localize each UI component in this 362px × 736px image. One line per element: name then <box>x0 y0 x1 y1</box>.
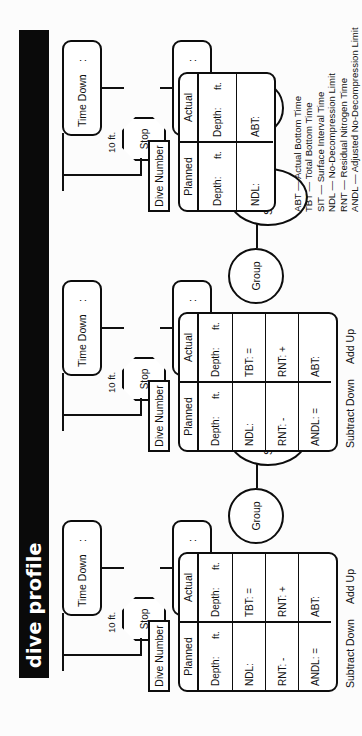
node-time-down-3[interactable]: Time Down : : <box>62 520 102 616</box>
node-label: Group <box>250 261 262 290</box>
table-row[interactable]: RNT: - RNT: + <box>265 314 298 450</box>
cell-label: Depth: <box>212 177 223 206</box>
cell-actual-rnt[interactable]: RNT: + <box>266 314 298 383</box>
cell-label: Depth: <box>210 588 221 617</box>
node-time-down-2[interactable]: Time Down : : <box>62 280 102 376</box>
table-row[interactable]: RNT: - RNT: + <box>265 554 298 690</box>
legend-item: TBT — Total Bottom Time <box>303 27 314 212</box>
dive-number-label: Dive Number <box>153 145 165 206</box>
node-label: Time Down <box>76 554 88 607</box>
table-header-row: Planned Actual <box>180 554 199 690</box>
node-label: Time Down <box>76 314 88 367</box>
cell-unit: ft. <box>212 78 223 90</box>
cell-label: Depth: <box>210 657 221 686</box>
table-row[interactable]: NDL: ABT: <box>236 74 273 210</box>
page-title: dive profile <box>23 542 45 678</box>
dive-number-box-1[interactable]: Dive Number <box>148 140 170 212</box>
dive-table-1[interactable]: Planned Actual Depth: ft. Depth: ft. NDL… <box>178 72 276 212</box>
cell-label: ABT: <box>250 116 261 137</box>
cell-actual-abt[interactable]: ABT: <box>237 74 273 143</box>
connector <box>62 174 142 176</box>
stop-depth-label-3: 10 ft. <box>106 612 117 633</box>
stop-depth-label-2: 10 ft. <box>106 372 117 393</box>
cell-planned-depth[interactable]: Depth: ft. <box>199 383 232 450</box>
cell-actual-depth[interactable]: Depth: ft. <box>199 314 232 383</box>
connector <box>62 654 142 656</box>
table-row[interactable]: NDL: TBT: = <box>232 554 265 690</box>
dive-table-3[interactable]: Planned Actual Depth: ft. Depth: ft. NDL… <box>178 552 338 692</box>
cell-planned-depth[interactable]: Depth: ft. <box>199 623 232 690</box>
dive-number-label: Dive Number <box>153 625 165 686</box>
table-header-row: Planned Actual <box>180 74 199 210</box>
cell-label: RNT: - <box>277 658 288 686</box>
dive-number-label: Dive Number <box>153 385 165 446</box>
table-row[interactable]: ANDL: = ABT: <box>298 314 331 450</box>
table-2-footer-add: Add Up <box>344 329 356 364</box>
cell-label: Depth: <box>210 417 221 446</box>
cell-unit: ft. <box>210 318 221 330</box>
connector <box>256 224 258 248</box>
col-header-planned: Planned <box>180 383 197 450</box>
cell-actual-depth[interactable]: Depth: ft. <box>199 74 236 143</box>
cell-label: RNT: - <box>277 418 288 446</box>
connector <box>102 567 124 569</box>
node-label: Group <box>250 501 262 530</box>
cell-label: TBT: = <box>244 588 255 617</box>
cell-label: NDL: <box>244 663 255 686</box>
cell-actual-tbt[interactable]: TBT: = <box>233 554 265 623</box>
cell-label: Depth: <box>210 348 221 377</box>
node-group-2[interactable]: Group <box>228 248 284 304</box>
legend-item: NDL — No-Decompression Limit <box>326 27 337 212</box>
cell-planned-andl[interactable]: ANDL: = <box>299 623 331 690</box>
col-header-actual: Actual <box>180 74 197 143</box>
connector <box>62 613 64 671</box>
cell-actual-tbt[interactable]: TBT: = <box>233 314 265 383</box>
dive-number-box-2[interactable]: Dive Number <box>148 380 170 452</box>
cell-planned-rnt[interactable]: RNT: - <box>266 383 298 450</box>
cell-actual-rnt[interactable]: RNT: + <box>266 554 298 623</box>
cell-label: RNT: + <box>277 586 288 617</box>
connector <box>160 327 174 329</box>
node-group-4[interactable]: Group <box>228 488 284 544</box>
node-label: Time Down <box>76 74 88 127</box>
table-row[interactable]: Depth: ft. Depth: ft. <box>199 74 236 210</box>
cell-planned-ndl[interactable]: NDL: <box>233 383 265 450</box>
dive-number-box-3[interactable]: Dive Number <box>148 620 170 692</box>
cell-actual-abt[interactable]: ABT: <box>299 314 331 383</box>
cell-planned-ndl[interactable]: NDL: <box>233 623 265 690</box>
legend-item: SIT — Surface Interval Time <box>315 27 326 212</box>
node-time-down-1[interactable]: Time Down : : <box>62 40 102 136</box>
legend-item: ANDL — Adjusted No-Decompression Limit <box>349 27 360 212</box>
table-row[interactable]: Depth: ft. Depth: ft. <box>199 554 232 690</box>
cell-label: RNT: + <box>277 346 288 377</box>
legend-item: RNT — Residual Nitrogen Time <box>338 27 349 212</box>
table-row[interactable]: Depth: ft. Depth: ft. <box>199 314 232 450</box>
cell-actual-depth[interactable]: Depth: ft. <box>199 554 232 623</box>
table-row[interactable]: ANDL: = ABT: <box>298 554 331 690</box>
cell-label: ABT: <box>310 356 321 377</box>
table-3-footer-add: Add Up <box>344 569 356 604</box>
connector <box>62 414 142 416</box>
dive-table-2[interactable]: Planned Actual Depth: ft. Depth: ft. NDL… <box>178 312 338 452</box>
cell-planned-andl[interactable]: ANDL: = <box>299 383 331 450</box>
connector <box>160 567 174 569</box>
cell-planned-ndl[interactable]: NDL: <box>237 143 273 210</box>
cell-planned-depth[interactable]: Depth: ft. <box>199 143 236 210</box>
col-header-planned: Planned <box>180 623 197 690</box>
table-row[interactable]: NDL: TBT: = <box>232 314 265 450</box>
abbreviation-legend: ABT — Actual Bottom Time TBT — Total Bot… <box>292 27 360 212</box>
cell-unit: ft. <box>210 627 221 639</box>
connector <box>256 464 258 488</box>
stop-depth-label-1: 10 ft. <box>106 132 117 153</box>
cell-unit: ft. <box>212 147 223 159</box>
cell-planned-rnt[interactable]: RNT: - <box>266 623 298 690</box>
connector <box>102 327 124 329</box>
connector <box>62 373 64 431</box>
legend-item: ABT — Actual Bottom Time <box>292 27 303 212</box>
table-3-footer-subtract: Subtract Down <box>344 619 356 688</box>
cell-unit: ft. <box>210 558 221 570</box>
dive-profile-sheet: dive profile Time Down : : Stop 10 ft. T… <box>0 0 362 736</box>
table-header-row: Planned Actual <box>180 314 199 450</box>
connector <box>160 87 174 89</box>
cell-actual-abt[interactable]: ABT: <box>299 554 331 623</box>
